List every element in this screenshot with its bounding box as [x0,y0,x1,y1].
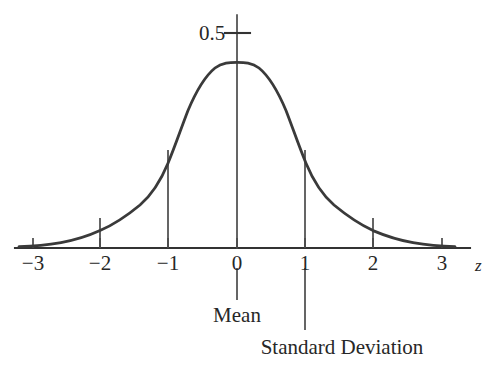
x-tick-label-minus3: −3 [13,253,53,274]
x-tick-label-plus2: 2 [353,253,393,274]
x-tick-label-zero: 0 [217,253,257,274]
normal-distribution-figure: 0.5 −3 −2 −1 0 1 2 3 z Mean Standard Dev… [0,0,499,376]
y-axis-peak-label: 0.5 [199,23,225,44]
mean-annotation-label: Mean [187,305,287,326]
x-tick-label-plus1: 1 [285,253,325,274]
standard-deviation-annotation-label: Standard Deviation [242,337,442,358]
x-axis-variable-label: z [475,257,482,274]
x-tick-label-minus1: −1 [148,253,188,274]
x-tick-label-minus2: −2 [80,253,120,274]
x-tick-label-plus3: 3 [422,253,462,274]
